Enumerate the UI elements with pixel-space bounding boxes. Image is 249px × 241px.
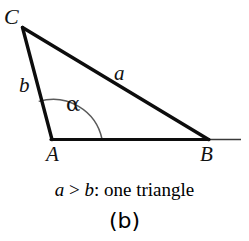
figure-caption: a > b: one triangle bbox=[0, 180, 249, 200]
side-label-a: a bbox=[114, 63, 125, 84]
triangle-diagram bbox=[0, 0, 249, 241]
figure-container: C A B b a α a > b: one triangle (b) bbox=[0, 0, 249, 241]
vertex-label-c: C bbox=[4, 6, 19, 28]
caption-tail: : one triangle bbox=[94, 179, 194, 200]
subfigure-label: (b) bbox=[0, 209, 249, 232]
caption-term-a: a bbox=[55, 179, 65, 200]
vertex-label-b: B bbox=[200, 144, 213, 165]
caption-relation: > bbox=[64, 179, 84, 200]
vertex-label-a: A bbox=[46, 144, 59, 165]
side-label-b: b bbox=[19, 75, 30, 96]
caption-term-b: b bbox=[84, 179, 94, 200]
angle-label-alpha: α bbox=[66, 94, 80, 115]
